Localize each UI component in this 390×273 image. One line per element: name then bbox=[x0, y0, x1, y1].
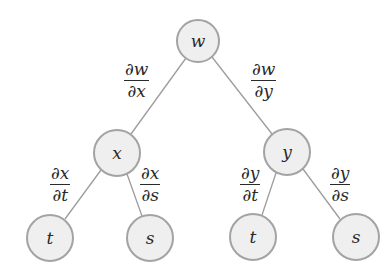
fraction-numerator: ∂y bbox=[330, 164, 350, 183]
edge-y-t bbox=[262, 173, 276, 215]
node-s-left-label: s bbox=[146, 228, 155, 248]
node-x-label: x bbox=[112, 143, 122, 163]
node-s-right-label: s bbox=[352, 227, 361, 247]
fraction-numerator: ∂y bbox=[240, 164, 260, 183]
edge-label-dy-dt: ∂y ∂t bbox=[240, 164, 260, 205]
fraction-numerator: ∂w bbox=[251, 60, 276, 79]
node-y: y bbox=[264, 129, 310, 175]
fraction-denominator: ∂t bbox=[51, 186, 69, 205]
edge-label-dy-ds: ∂y ∂s bbox=[330, 164, 350, 205]
node-w: w bbox=[177, 20, 219, 62]
fraction-numerator: ∂x bbox=[140, 164, 160, 183]
node-t-right-label: t bbox=[250, 227, 257, 247]
node-t-right: t bbox=[230, 214, 276, 260]
fraction-numerator: ∂w bbox=[124, 60, 149, 79]
node-y-label: y bbox=[281, 142, 292, 162]
node-s-left: s bbox=[127, 215, 173, 261]
fraction-denominator: ∂x bbox=[126, 82, 146, 101]
fraction-denominator: ∂y bbox=[253, 82, 273, 101]
node-x: x bbox=[94, 130, 140, 176]
edge-x-t bbox=[65, 170, 101, 219]
edge-label-dx-ds: ∂x ∂s bbox=[140, 164, 160, 205]
fraction-denominator: ∂s bbox=[330, 186, 350, 205]
node-t-left-label: t bbox=[47, 228, 54, 248]
node-t-left: t bbox=[27, 215, 73, 261]
edge-label-dx-dt: ∂x ∂t bbox=[50, 164, 70, 205]
node-w-label: w bbox=[191, 31, 206, 51]
fraction-denominator: ∂s bbox=[140, 186, 160, 205]
fraction-denominator: ∂t bbox=[241, 186, 259, 205]
edge-label-dw-dy: ∂w ∂y bbox=[251, 60, 276, 101]
chain-rule-tree: w x y t s t s bbox=[0, 0, 390, 273]
node-s-right: s bbox=[333, 214, 379, 260]
fraction-numerator: ∂x bbox=[50, 164, 70, 183]
edge-label-dw-dx: ∂w ∂x bbox=[124, 60, 149, 101]
